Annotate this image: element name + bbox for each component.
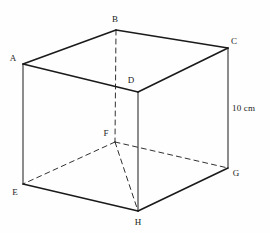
edge-f-g-hidden xyxy=(115,142,228,168)
cube-diagram: ABCDEFGH10 cm xyxy=(0,0,270,233)
dimension-label-height: 10 cm xyxy=(232,104,255,113)
edge-d-a xyxy=(23,64,138,92)
edge-e-h xyxy=(23,184,138,211)
cube-svg-canvas xyxy=(0,0,270,233)
vertex-label-c: C xyxy=(231,37,237,46)
vertex-label-h: H xyxy=(135,218,142,227)
edge-f-h-hidden xyxy=(115,142,138,211)
edge-b-c xyxy=(116,30,228,48)
edge-a-b xyxy=(23,30,116,64)
edge-c-d xyxy=(138,48,228,92)
edge-h-g xyxy=(138,168,228,211)
vertex-label-e: E xyxy=(12,188,18,197)
vertex-label-d: D xyxy=(128,76,135,85)
edge-f-e-hidden xyxy=(23,142,115,184)
vertex-label-b: B xyxy=(112,15,118,24)
edge-b-f-hidden xyxy=(115,30,116,142)
vertex-label-f: F xyxy=(103,129,108,138)
vertex-label-a: A xyxy=(10,54,17,63)
vertex-label-g: G xyxy=(233,169,240,178)
